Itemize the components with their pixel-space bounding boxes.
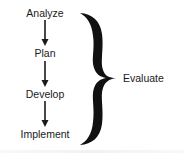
arrow-down-icon: [41, 20, 49, 46]
step-develop: Develop: [26, 88, 65, 100]
arrow-down-icon: [41, 61, 49, 87]
step-implement: Implement: [20, 128, 69, 140]
step-analyze: Analyze: [26, 7, 63, 19]
step-plan: Plan: [34, 47, 55, 59]
arrow-down-icon: [41, 101, 49, 127]
evaluate-label: Evaluate: [123, 72, 164, 84]
cropped-caption-remnant: [0, 150, 184, 153]
curly-brace-icon: [78, 10, 122, 148]
